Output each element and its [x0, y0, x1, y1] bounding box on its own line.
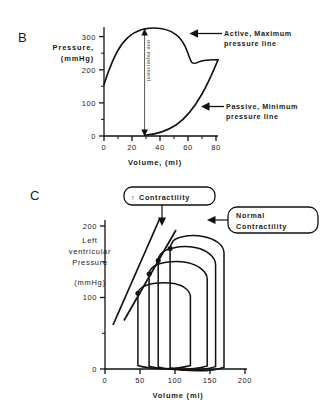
panel-b-xtick-20: 20 — [127, 143, 137, 152]
annotation-active-maximum-line1: Active, Maximum — [224, 29, 292, 38]
panel-b: B 0 100 200 300 Pressure, (mmHg) — [0, 0, 324, 180]
panel-b-svg: B 0 100 200 300 Pressure, (mmHg) — [0, 0, 324, 180]
panel-c-y-axis-title-line2: ventricular — [69, 247, 111, 256]
panel-c-ytick-0: 0 — [92, 365, 97, 374]
callout-normal-contractility-line1: Normal — [236, 211, 265, 220]
panel-c-xtick-0: 0 — [103, 376, 108, 385]
panel-c-letter: C — [30, 188, 40, 203]
passive-minimum-pressure-curve — [145, 60, 218, 135]
panel-b-xtick-0: 0 — [102, 143, 107, 152]
panel-b-y-axis-title-line1: Pressure, — [53, 43, 94, 52]
panel-b-ytick-100: 100 — [82, 99, 96, 108]
one-experiment-label: one experiment — [146, 40, 152, 82]
panel-b-x-axis-title: Volume, (ml) — [128, 158, 182, 167]
panel-b-ytick-0: 0 — [91, 132, 96, 141]
annotation-passive-minimum — [201, 102, 224, 111]
panel-b-xtick-80: 80 — [211, 143, 221, 152]
panel-c-y-axis-title-line1: Left — [82, 236, 98, 245]
panel-c-svg: C 0 100 200 Left ventricular Pressure (m… — [0, 175, 324, 412]
annotation-passive-minimum-line2: pressure line — [226, 112, 279, 121]
panel-b-ytick-300: 300 — [82, 33, 96, 42]
panel-b-xtick-60: 60 — [183, 143, 193, 152]
panel-b-y-axis-title-line2: (mmHg) — [61, 54, 94, 63]
callout-normal-arrow-head — [207, 216, 216, 224]
annotation-active-maximum — [190, 29, 223, 38]
callout-increased-contractility-label: Contractility — [139, 193, 190, 202]
panel-b-y-axis — [99, 27, 104, 136]
panel-c-xtick-50: 50 — [135, 376, 145, 385]
panel-c-xtick-150: 150 — [203, 376, 217, 385]
panel-c-y-axis-title-line4: (mmHg) — [74, 278, 105, 287]
panel-c: C 0 100 200 Left ventricular Pressure (m… — [0, 175, 324, 412]
callout-normal-contractility[interactable]: Normal Contractility — [207, 207, 318, 233]
callout-increased-contractility[interactable]: ↑ Contractility — [124, 187, 215, 226]
panel-c-xtick-200: 200 — [238, 376, 252, 385]
annotation-passive-minimum-line1: Passive, Minimum — [226, 102, 298, 111]
callout-increased-contractility-arrow-icon: ↑ — [131, 193, 135, 202]
panel-c-y-axis — [100, 220, 105, 369]
panel-b-letter: B — [18, 30, 27, 45]
panel-c-ytick-200: 200 — [83, 222, 97, 231]
active-maximum-pressure-curve — [104, 28, 218, 85]
annotation-active-maximum-line2: pressure line — [224, 39, 277, 48]
pv-loop-1 — [138, 283, 191, 369]
panel-b-x-axis — [104, 136, 218, 141]
callout-normal-contractility-line2: Contractility — [236, 222, 287, 231]
panel-c-ytick-100: 100 — [83, 293, 97, 302]
panel-c-y-axis-title-line3: Pressure — [72, 258, 108, 267]
panel-c-x-axis-title: Volume (ml) — [152, 391, 203, 400]
panel-c-xtick-100: 100 — [168, 376, 182, 385]
panel-b-ytick-200: 200 — [82, 66, 96, 75]
panel-b-xtick-40: 40 — [155, 143, 165, 152]
